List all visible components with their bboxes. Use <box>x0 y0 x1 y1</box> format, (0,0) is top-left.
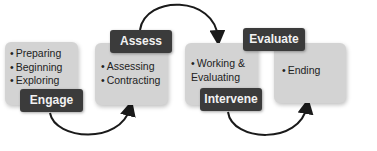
stage-label-engage: Engage <box>20 89 83 112</box>
item-contracting: Contracting <box>101 74 160 88</box>
stage-items-intervene: Working & Evaluating <box>191 57 256 84</box>
item-exploring: Exploring <box>10 74 62 88</box>
stage-label-intervene: Intervene <box>200 88 262 111</box>
stage-items-engage: Preparing Beginning Exploring <box>10 47 62 88</box>
stage-items-assess: Assessing Contracting <box>101 60 160 87</box>
stage-items-evaluate: Ending <box>282 64 320 78</box>
item-preparing: Preparing <box>10 47 62 61</box>
item-beginning: Beginning <box>10 61 62 75</box>
item-working-evaluating: Working & Evaluating <box>191 57 256 84</box>
item-assessing: Assessing <box>101 60 160 74</box>
stage-label-assess: Assess <box>110 30 172 53</box>
stage-label-evaluate: Evaluate <box>243 28 305 51</box>
item-ending: Ending <box>282 64 320 78</box>
